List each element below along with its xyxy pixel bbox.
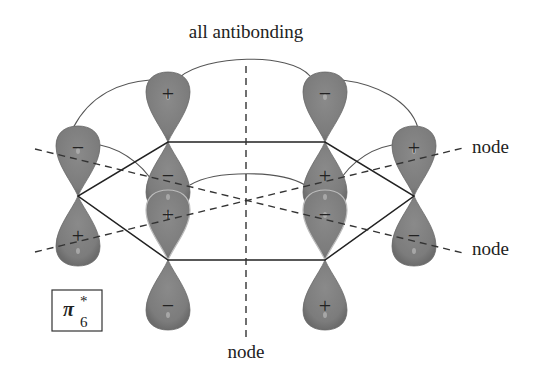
arc-upper-right bbox=[342, 80, 418, 128]
sign-top-left-upper: + bbox=[162, 81, 174, 106]
sign-top-left-lower: − bbox=[162, 163, 174, 188]
arc-top bbox=[180, 59, 310, 77]
arc-center bbox=[190, 174, 305, 185]
sign-right-upper: + bbox=[408, 135, 420, 160]
sign-bottom-left-upper: + bbox=[162, 202, 174, 227]
sign-right-lower: − bbox=[408, 223, 420, 248]
sign-bottom-right-upper: − bbox=[319, 202, 331, 227]
orbital-symbol: π bbox=[63, 298, 75, 320]
orbital-superscript: * bbox=[80, 293, 88, 309]
sign-bottom-left-lower: − bbox=[162, 293, 174, 318]
arc-upper-left bbox=[73, 80, 150, 128]
orbital-label-box: π * 6 bbox=[52, 290, 102, 331]
sign-top-right-lower: + bbox=[319, 163, 331, 188]
node-label-bottom: node bbox=[228, 341, 265, 362]
sign-left-lower: + bbox=[72, 223, 84, 248]
sign-left-upper: − bbox=[72, 135, 84, 160]
node-label-lower-right: node bbox=[472, 238, 509, 259]
sign-top-right-upper: − bbox=[319, 81, 331, 106]
node-label-upper-right: node bbox=[472, 136, 509, 157]
title-label: all antibonding bbox=[189, 21, 304, 42]
sign-bottom-right-lower: + bbox=[319, 293, 331, 318]
pi6-star-orbital-diagram: all antibonding bbox=[0, 0, 544, 384]
orbital-subscript: 6 bbox=[80, 314, 88, 330]
